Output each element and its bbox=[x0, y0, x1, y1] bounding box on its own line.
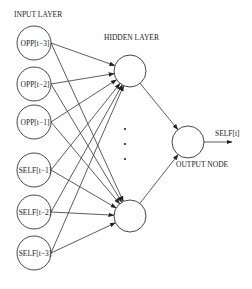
hidden-node bbox=[114, 55, 146, 87]
hidden-layer-title: HIDDEN LAYER bbox=[104, 33, 159, 42]
edge-input-0-hidden-0 bbox=[51, 43, 115, 66]
input-node: OPP[t−1] bbox=[17, 105, 51, 139]
hidden-node bbox=[114, 200, 146, 232]
input-node-label: OPP[t−2] bbox=[21, 80, 50, 89]
input-node-label: OPP[t−1] bbox=[21, 118, 50, 127]
input-node: SELF[t−1] bbox=[17, 153, 51, 187]
edge-input-5-hidden-0 bbox=[51, 86, 124, 253]
input-layer-title: INPUT LAYER bbox=[14, 10, 62, 19]
edge-input-2-hidden-1 bbox=[51, 122, 120, 204]
ellipsis-dot bbox=[124, 158, 126, 160]
ellipsis-dot bbox=[124, 143, 126, 145]
edge-input-3-hidden-0 bbox=[51, 84, 120, 170]
input-node: OPP[t−3] bbox=[17, 26, 51, 60]
edge-input-1-hidden-1 bbox=[51, 84, 122, 202]
edge-input-3-hidden-1 bbox=[51, 170, 116, 208]
input-node-label: SELF[t−3] bbox=[19, 249, 52, 258]
nodes: OPP[t−3]OPP[t−2]OPP[t−1]SELF[t−1]SELF[t−… bbox=[17, 26, 204, 270]
output-node-title: OUTPUT NODE bbox=[176, 160, 229, 169]
input-node: OPP[t−2] bbox=[17, 67, 51, 101]
neural-network-diagram: OPP[t−3]OPP[t−2]OPP[t−1]SELF[t−1]SELF[t−… bbox=[0, 0, 252, 289]
edge-hidden-1-output bbox=[140, 155, 178, 204]
edge-input-1-hidden-0 bbox=[51, 74, 114, 84]
input-node: SELF[t−2] bbox=[17, 195, 51, 229]
input-node: SELF[t−3] bbox=[17, 236, 51, 270]
edge-input-4-hidden-0 bbox=[51, 85, 122, 212]
output-node bbox=[172, 126, 204, 158]
edge-input-4-hidden-1 bbox=[51, 212, 114, 215]
output-label: SELF[t] bbox=[215, 129, 240, 138]
ellipsis-dot bbox=[124, 128, 126, 130]
edge-hidden-0-output bbox=[140, 83, 178, 129]
input-node-label: SELF[t−1] bbox=[19, 166, 52, 175]
input-node-label: SELF[t−2] bbox=[19, 208, 52, 217]
edge-input-5-hidden-1 bbox=[51, 223, 116, 253]
edge-input-0-hidden-1 bbox=[51, 43, 123, 201]
input-node-label: OPP[t−3] bbox=[21, 39, 50, 48]
